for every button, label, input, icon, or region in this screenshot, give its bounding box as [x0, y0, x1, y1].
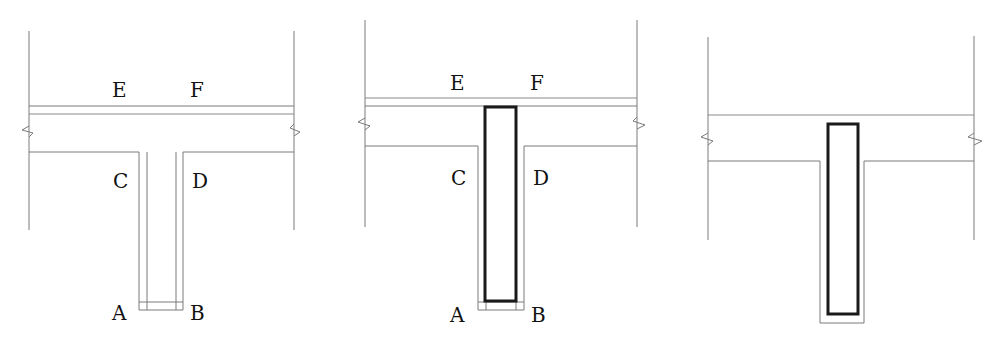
- slab-stem-outline: [708, 161, 974, 323]
- label-e: E: [112, 78, 127, 102]
- left-break-icon: [22, 126, 33, 137]
- right-break-icon: [290, 124, 300, 136]
- label-d: D: [192, 169, 208, 193]
- label-a: A: [111, 301, 127, 325]
- t-beam-diagram: E F C D A B E F C D A B: [0, 0, 1004, 339]
- right-break-icon: [968, 133, 982, 145]
- right-break-icon: [633, 117, 645, 129]
- left-break-icon: [701, 133, 713, 145]
- embedded-web-member: [828, 124, 858, 314]
- label-e: E: [450, 71, 465, 95]
- label-b: B: [531, 303, 546, 327]
- panel-2: E F C D A B: [358, 20, 645, 327]
- slab-stem-outline: [29, 152, 294, 310]
- embedded-web-member: [485, 107, 516, 301]
- label-c: C: [451, 166, 466, 190]
- slab-stem-outline: [365, 146, 637, 310]
- panel-1: E F C D A B: [22, 31, 300, 325]
- left-break-icon: [358, 118, 370, 130]
- label-d: D: [533, 166, 549, 190]
- label-b: B: [190, 301, 205, 325]
- label-f: F: [190, 78, 204, 102]
- label-f: F: [530, 71, 544, 95]
- label-a: A: [449, 303, 465, 327]
- panel-3: [701, 36, 982, 323]
- label-c: C: [113, 169, 128, 193]
